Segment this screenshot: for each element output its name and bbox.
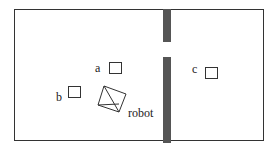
label-b: b — [56, 90, 62, 104]
label-robot: robot — [128, 106, 154, 120]
wall-top-segment — [163, 9, 171, 42]
label-a: a — [95, 61, 101, 75]
box-c — [206, 68, 218, 79]
robot-icon — [98, 86, 126, 112]
label-c: c — [192, 62, 197, 76]
room-outline — [15, 10, 264, 141]
box-a — [110, 63, 122, 74]
room-diagram: a b c robot — [0, 0, 275, 152]
wall-bottom-segment — [163, 57, 171, 143]
box-b — [69, 87, 81, 98]
